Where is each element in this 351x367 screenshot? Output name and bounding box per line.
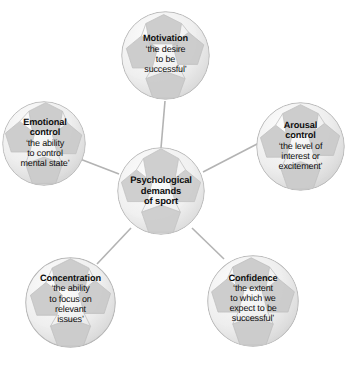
edge-center-to-motivation <box>161 101 165 148</box>
node-desc-line-3: successful’ <box>121 64 210 74</box>
node-label: Confidence ‘the extent to which we expec… <box>207 273 299 324</box>
node-desc-line-1: ‘the level of <box>256 141 345 151</box>
node-desc-line-1: ‘the ability <box>3 138 87 148</box>
node-motivation[interactable]: Motivation ‘the desire to be successful’ <box>121 11 210 100</box>
node-desc-line-4: successful’ <box>207 313 299 323</box>
node-desc-line-1: ‘the desire <box>121 44 210 54</box>
edge-center-to-concentration <box>97 228 131 264</box>
node-label: Arousal control ‘the level of interest o… <box>256 120 345 171</box>
node-desc-line-2: to focus on <box>25 294 116 304</box>
node-label: Motivation ‘the desire to be successful’ <box>121 33 210 74</box>
edge-center-to-confidence <box>192 228 224 259</box>
center-line-3: of sport <box>117 196 205 207</box>
node-desc-line-1: ‘the extent <box>207 283 299 293</box>
node-desc-line-3: mental state’ <box>3 158 87 168</box>
node-label: Psychological demands of sport <box>117 175 205 207</box>
node-label: Emotional control ‘the ability to contro… <box>3 117 87 168</box>
node-title-line-1: Arousal <box>256 120 345 130</box>
node-desc-line-3: relevant <box>25 304 116 314</box>
node-desc-line-2: interest or <box>256 151 345 161</box>
node-confidence[interactable]: Confidence ‘the extent to which we expec… <box>207 255 299 347</box>
node-desc-line-4: issues’ <box>25 314 116 324</box>
node-title: Confidence <box>207 273 299 283</box>
node-concentration[interactable]: Concentration ‘the ability to focus on r… <box>25 257 116 348</box>
node-emotional-control[interactable]: Emotional control ‘the ability to contro… <box>2 101 86 186</box>
psychological-demands-diagram: Psychological demands of sport <box>0 0 351 367</box>
node-title-line-2: control <box>3 127 87 137</box>
node-desc-line-2: to be <box>121 54 210 64</box>
node-title-line-1: Emotional <box>3 117 87 127</box>
node-label: Concentration ‘the ability to focus on r… <box>25 273 116 324</box>
node-desc-line-2: to control <box>3 148 87 158</box>
node-arousal-control[interactable]: Arousal control ‘the level of interest o… <box>256 102 345 191</box>
edge-center-to-arousal <box>203 143 259 172</box>
node-desc-line-3: expect to be <box>207 303 299 313</box>
node-psychological-demands-of-sport[interactable]: Psychological demands of sport <box>117 147 205 235</box>
node-title: Motivation <box>121 33 210 43</box>
node-desc-line-2: to which we <box>207 293 299 303</box>
node-desc-line-3: excitement’ <box>256 161 345 171</box>
node-desc-line-1: ‘the ability <box>25 283 116 293</box>
node-title: Concentration <box>25 273 116 283</box>
node-title-line-2: control <box>256 130 345 140</box>
